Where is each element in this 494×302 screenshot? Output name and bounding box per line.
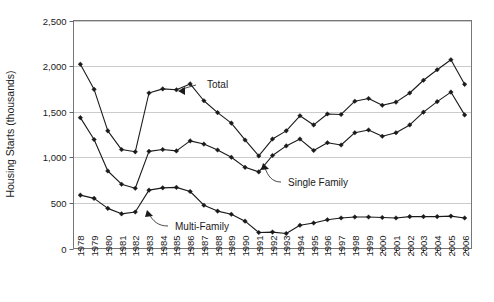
x-axis-tick-label: 1997 [336, 235, 347, 256]
x-axis-tick-label: 1995 [309, 235, 320, 256]
x-axis-tick-label: 2003 [418, 235, 429, 256]
x-axis-tick-label: 1990 [240, 235, 251, 256]
x-axis-tick-label: 1986 [185, 235, 196, 256]
annotation-label-total: Total [207, 79, 228, 90]
x-axis-tick-label: 1992 [268, 235, 279, 256]
y-axis-title: Housing Starts (thousands) [4, 70, 16, 197]
y-axis-tick-label: 1,500 [43, 107, 67, 118]
annotation-label-single-family: Single Family [288, 177, 348, 188]
x-axis-labels-group: 1978197919801981198219831984198519861987… [75, 235, 471, 256]
housing-starts-chart: 05001,0001,5002,0002,500 197819791980198… [0, 0, 494, 302]
x-axis-tick-label: 2004 [432, 235, 443, 256]
chart-canvas: 05001,0001,5002,0002,500 197819791980198… [0, 0, 494, 302]
x-axis-tick-label: 1981 [117, 235, 128, 256]
x-axis-tick-label: 2001 [391, 235, 402, 256]
x-axis-tick-label: 1985 [171, 235, 182, 256]
y-axis-tick-label: 1,000 [43, 152, 67, 163]
x-axis-tick-label: 1993 [281, 235, 292, 256]
x-axis-tick-label: 1991 [254, 235, 265, 256]
y-axis-tick-label: 2,500 [43, 16, 67, 27]
x-axis-tick-label: 2005 [446, 235, 457, 256]
x-axis-tick-label: 1989 [226, 235, 237, 256]
x-axis-tick-label: 2006 [460, 235, 471, 256]
x-axis-tick-label: 1994 [295, 235, 306, 256]
x-axis-tick-label: 1979 [89, 235, 100, 256]
x-axis-tick-label: 1988 [213, 235, 224, 256]
y-axis-tick-label: 0 [61, 244, 66, 255]
y-axis-tick-label: 500 [51, 198, 67, 209]
x-axis-tick-label: 1996 [322, 235, 333, 256]
x-axis-tick-label: 1978 [75, 235, 86, 256]
y-axis-tick-label: 2,000 [43, 61, 67, 72]
x-axis-tick-label: 2000 [377, 235, 388, 256]
x-axis-tick-label: 1980 [103, 235, 114, 256]
x-axis-tick-label: 2002 [405, 235, 416, 256]
x-axis-tick-label: 1982 [130, 235, 141, 256]
x-axis-tick-label: 1984 [158, 235, 169, 256]
x-axis-tick-label: 1987 [199, 235, 210, 256]
x-axis-tick-label: 1983 [144, 235, 155, 256]
x-axis-tick-label: 1998 [350, 235, 361, 256]
x-axis-tick-label: 1999 [364, 235, 375, 256]
annotation-label-multi-family: Multi-Family [175, 221, 229, 232]
